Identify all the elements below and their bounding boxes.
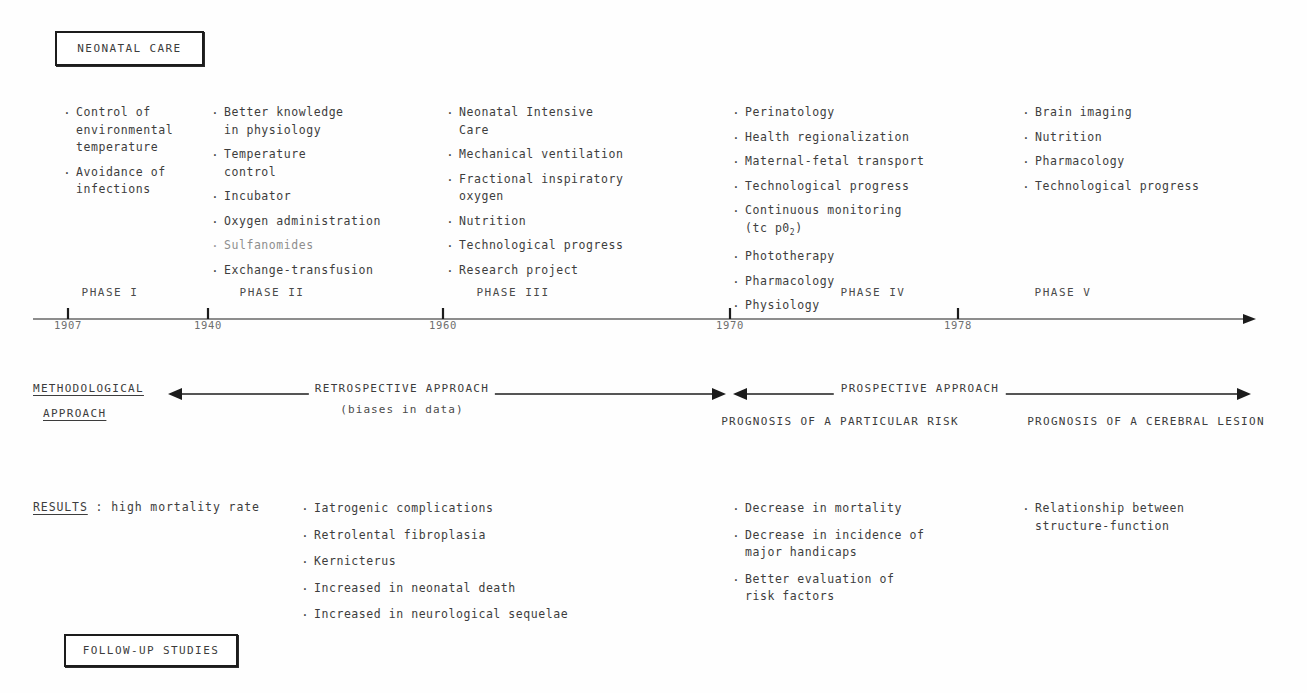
timeline-axis-svg	[0, 286, 1307, 346]
phase-iv-list: PerinatologyHealth regionalizationMatern…	[731, 104, 971, 315]
retrospective-approach-label: RETROSPECTIVE APPROACH	[309, 382, 495, 395]
list-item: Kernicterus	[300, 553, 630, 571]
diagram-canvas: NEONATAL CARE Control of environmental t…	[0, 0, 1307, 693]
prospective-approach-label: PROSPECTIVE APPROACH	[834, 382, 1006, 395]
retrospective-arrow-head-left	[168, 388, 182, 400]
year-tick-label: 1940	[194, 319, 222, 331]
list-item: Research project	[445, 262, 675, 280]
methodological-approach-title-line1-text: METHODOLOGICAL	[33, 382, 144, 395]
phase-ii-column: Better knowledge in physiologyTemperatur…	[210, 104, 440, 286]
list-item: Brain imaging	[1021, 104, 1281, 122]
list-item: Nutrition	[1021, 129, 1281, 147]
results-phase-iv-list: Decrease in mortalityDecrease in inciden…	[731, 500, 991, 606]
results-phase-v-column: Relationship between structure-function	[1021, 500, 1271, 544]
prospective-arrow-head-left	[733, 388, 747, 400]
list-item: Phototherapy	[731, 248, 971, 266]
year-tick-label: 1970	[716, 319, 744, 331]
list-item: Fractional inspiratory oxygen	[445, 171, 675, 206]
phase-v-list: Brain imagingNutritionPharmacologyTechno…	[1021, 104, 1281, 195]
timeline-arrowhead	[1243, 314, 1256, 324]
prospective-arrow-head-right	[1237, 388, 1251, 400]
results-early-list: Iatrogenic complicationsRetrolental fibr…	[300, 500, 630, 624]
phase-v-column: Brain imagingNutritionPharmacologyTechno…	[1021, 104, 1281, 202]
methodological-approach-title-line2-text: APPROACH	[43, 407, 106, 420]
list-item: Temperature control	[210, 146, 440, 181]
prognosis-particular-risk-label: PROGNOSIS OF A PARTICULAR RISK	[721, 415, 959, 428]
year-tick-label: 1978	[944, 319, 972, 331]
results-phase-iv-column: Decrease in mortalityDecrease in inciden…	[731, 500, 991, 615]
phase-label: PHASE III	[476, 286, 549, 299]
results-early-column: Iatrogenic complicationsRetrolental fibr…	[300, 500, 630, 633]
list-item: Continuous monitoring (tc p02)	[731, 202, 971, 241]
results-heading-label: RESULTS	[33, 500, 88, 514]
list-item: Maternal-fetal transport	[731, 153, 971, 171]
list-item: Better evaluation of risk factors	[731, 571, 991, 606]
list-item: Technological progress	[731, 178, 971, 196]
list-item: Increased in neonatal death	[300, 580, 630, 598]
list-item: Health regionalization	[731, 129, 971, 147]
year-tick-label: 1907	[54, 319, 82, 331]
neonatal-care-title-label: NEONATAL CARE	[77, 42, 181, 55]
list-item: Retrolental fibroplasia	[300, 527, 630, 545]
phase-iii-list: Neonatal Intensive CareMechanical ventil…	[445, 104, 675, 279]
phase-iii-column: Neonatal Intensive CareMechanical ventil…	[445, 104, 675, 286]
list-item: Mechanical ventilation	[445, 146, 675, 164]
list-item: Control of environmental temperature	[62, 104, 212, 157]
list-item: Technological progress	[445, 237, 675, 255]
phase-label: PHASE V	[1035, 286, 1092, 299]
list-item: Nutrition	[445, 213, 675, 231]
list-item: Exchange-transfusion	[210, 262, 440, 280]
follow-up-studies-label: FOLLOW-UP STUDIES	[83, 644, 219, 657]
list-item: Pharmacology	[1021, 153, 1281, 171]
phase-label: PHASE I	[82, 286, 139, 299]
list-item: Neonatal Intensive Care	[445, 104, 675, 139]
retrospective-approach-sublabel: (biases in data)	[340, 403, 464, 416]
results-heading: RESULTS : high mortality rate	[33, 500, 260, 514]
approach-arrows-svg	[0, 372, 1307, 442]
list-item: Decrease in incidence of major handicaps	[731, 527, 991, 562]
list-item: Oxygen administration	[210, 213, 440, 231]
list-item: Better knowledge in physiology	[210, 104, 440, 139]
follow-up-studies-box: FOLLOW-UP STUDIES	[64, 634, 238, 667]
phase-ii-list: Better knowledge in physiologyTemperatur…	[210, 104, 440, 279]
results-heading-rest: : high mortality rate	[88, 500, 260, 514]
methodological-approach-title-line2: APPROACH	[43, 407, 106, 420]
methodological-approach-title-line1: METHODOLOGICAL	[33, 382, 144, 395]
list-item: Increased in neurological sequelae	[300, 606, 630, 624]
list-item: Sulfanomides	[210, 237, 440, 255]
phase-i-list: Control of environmental temperatureAvoi…	[62, 104, 212, 199]
retrospective-arrow-head-right	[712, 388, 726, 400]
timeline-axis: PHASE IPHASE IIPHASE IIIPHASE IVPHASE V …	[0, 286, 1307, 346]
list-item: Perinatology	[731, 104, 971, 122]
phase-i-column: Control of environmental temperatureAvoi…	[62, 104, 212, 206]
prognosis-cerebral-lesion-label: PROGNOSIS OF A CEREBRAL LESION	[1027, 415, 1265, 428]
year-tick-label: 1960	[429, 319, 457, 331]
phase-label: PHASE IV	[841, 286, 906, 299]
phase-label: PHASE II	[240, 286, 305, 299]
list-item: Decrease in mortality	[731, 500, 991, 518]
list-item: Iatrogenic complications	[300, 500, 630, 518]
list-item: Technological progress	[1021, 178, 1281, 196]
methodological-approach-section: METHODOLOGICAL APPROACH RETROSPECTIVE AP…	[0, 372, 1307, 442]
list-item: Incubator	[210, 188, 440, 206]
list-item: Relationship between structure-function	[1021, 500, 1271, 535]
results-phase-v-list: Relationship between structure-function	[1021, 500, 1271, 535]
subscript: 2	[790, 228, 795, 237]
list-item: Avoidance of infections	[62, 164, 212, 199]
neonatal-care-title-box: NEONATAL CARE	[55, 31, 204, 66]
